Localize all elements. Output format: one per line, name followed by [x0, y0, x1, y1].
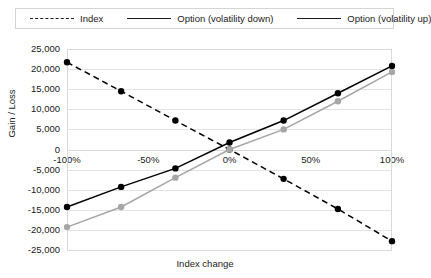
data-point-marker: [64, 204, 70, 210]
data-point-marker: [226, 139, 232, 145]
data-point-marker: [335, 98, 341, 104]
data-point-marker: [389, 63, 395, 69]
data-point-marker: [118, 88, 124, 94]
x-axis-title: Index change: [105, 258, 305, 269]
data-point-marker: [280, 176, 286, 182]
gridline: [67, 250, 392, 251]
series-layer: [67, 49, 392, 250]
plot-area: [67, 49, 392, 250]
data-point-marker: [64, 224, 70, 230]
data-point-marker: [389, 238, 395, 244]
data-point-marker: [172, 117, 178, 123]
data-point-marker: [118, 184, 124, 190]
data-point-marker: [335, 206, 341, 212]
data-point-marker: [172, 174, 178, 180]
data-point-marker: [118, 204, 124, 210]
data-point-marker: [226, 146, 232, 152]
series-line: [67, 66, 392, 207]
data-point-marker: [389, 69, 395, 75]
data-point-marker: [335, 90, 341, 96]
data-point-marker: [280, 117, 286, 123]
data-point-marker: [64, 59, 70, 65]
data-point-marker: [280, 126, 286, 132]
data-point-marker: [172, 165, 178, 171]
